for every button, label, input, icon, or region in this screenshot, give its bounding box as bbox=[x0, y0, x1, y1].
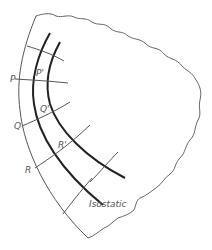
isostatic-curve-outer bbox=[48, 42, 125, 178]
label-p: P bbox=[10, 74, 16, 84]
crossing-line-bottom bbox=[63, 178, 92, 214]
label-r: R bbox=[25, 165, 31, 175]
label-isostatic: Isostatic bbox=[89, 199, 127, 209]
label-q-prime: Q' bbox=[40, 104, 50, 114]
label-p-prime: P' bbox=[36, 68, 44, 78]
crossing-line-lower-right bbox=[90, 152, 118, 182]
isostatic-diagram: P P' Q Q' R R' Isostatic bbox=[0, 0, 212, 250]
label-q: Q bbox=[14, 121, 21, 131]
left-boundary-arc bbox=[19, 16, 88, 238]
label-r-prime: R' bbox=[58, 140, 67, 150]
crossing-line-p bbox=[15, 79, 68, 83]
crossing-line-top bbox=[27, 46, 64, 61]
